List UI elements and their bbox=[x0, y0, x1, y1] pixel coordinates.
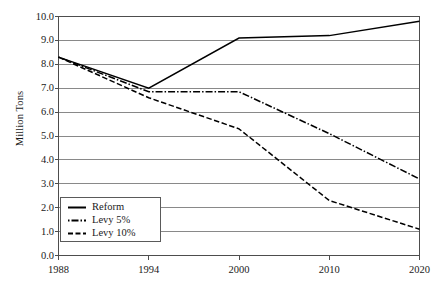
legend-swatch-levy-5 bbox=[67, 215, 87, 226]
legend-swatch-levy-10 bbox=[67, 228, 87, 239]
line-chart: Million Tons 0.01.02.03.04.05.06.07.08.0… bbox=[0, 0, 443, 286]
legend-label-levy-10: Levy 10% bbox=[92, 228, 135, 239]
legend-label-levy-5: Levy 5% bbox=[92, 215, 130, 226]
legend-item-reform: Reform bbox=[67, 201, 160, 214]
legend-item-levy-10: Levy 10% bbox=[67, 227, 160, 240]
legend-swatch-reform bbox=[67, 202, 87, 213]
legend-item-levy-5: Levy 5% bbox=[67, 214, 160, 227]
chart-legend: Reform Levy 5% Levy 10% bbox=[60, 197, 161, 242]
legend-label-reform: Reform bbox=[92, 202, 124, 213]
plot-area bbox=[0, 0, 443, 286]
